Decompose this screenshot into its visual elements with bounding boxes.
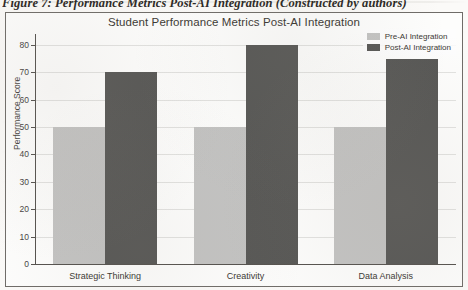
legend-swatch-icon: [367, 33, 380, 40]
legend-label: Pre-AI Integration: [385, 32, 448, 41]
bar-pre-ai-integration-data-analysis: [334, 127, 386, 264]
y-axis-tick-label: 30: [20, 177, 29, 187]
chart-frame: Student Performance Metrics Post-AI Inte…: [5, 12, 463, 287]
y-axis-tick-label: 10: [20, 232, 29, 242]
y-axis-tick-label: 20: [20, 204, 29, 214]
figure-page: Figure 7: Performance Metrics Post-AI In…: [0, 0, 468, 290]
bar-group-container: [35, 34, 456, 265]
x-axis-label-data-analysis: Data Analysis: [359, 271, 414, 281]
legend-label: Post-AI Integration: [385, 43, 451, 52]
bar-pre-ai-integration-creativity: [194, 127, 246, 264]
figure-caption-text: Figure 7: Performance Metrics Post-AI In…: [2, 0, 466, 10]
bar-post-ai-integration-creativity: [246, 45, 298, 264]
x-axis-label-strategic-thinking: Strategic Thinking: [69, 271, 141, 281]
y-axis-tick-label: 80: [20, 40, 29, 50]
legend-entry: Pre-AI Integration: [367, 32, 451, 41]
legend-entry: Post-AI Integration: [367, 43, 451, 52]
bar-post-ai-integration-strategic-thinking: [105, 72, 157, 264]
y-axis-title: Performance Score: [12, 77, 22, 150]
figure-caption: Figure 7: Performance Metrics Post-AI In…: [2, 0, 466, 10]
bar-pre-ai-integration-strategic-thinking: [53, 127, 105, 264]
plot-area: 01020304050607080 Strategic ThinkingCrea…: [35, 34, 456, 265]
bar-post-ai-integration-data-analysis: [386, 59, 438, 264]
legend-swatch-icon: [367, 44, 380, 51]
x-axis-label-creativity: Creativity: [227, 271, 265, 281]
chart-legend: Pre-AI IntegrationPost-AI Integration: [363, 29, 456, 55]
y-axis-tick-label: 0: [24, 259, 29, 269]
chart-title: Student Performance Metrics Post-AI Inte…: [6, 16, 462, 28]
y-axis-tick-label: 40: [20, 149, 29, 159]
